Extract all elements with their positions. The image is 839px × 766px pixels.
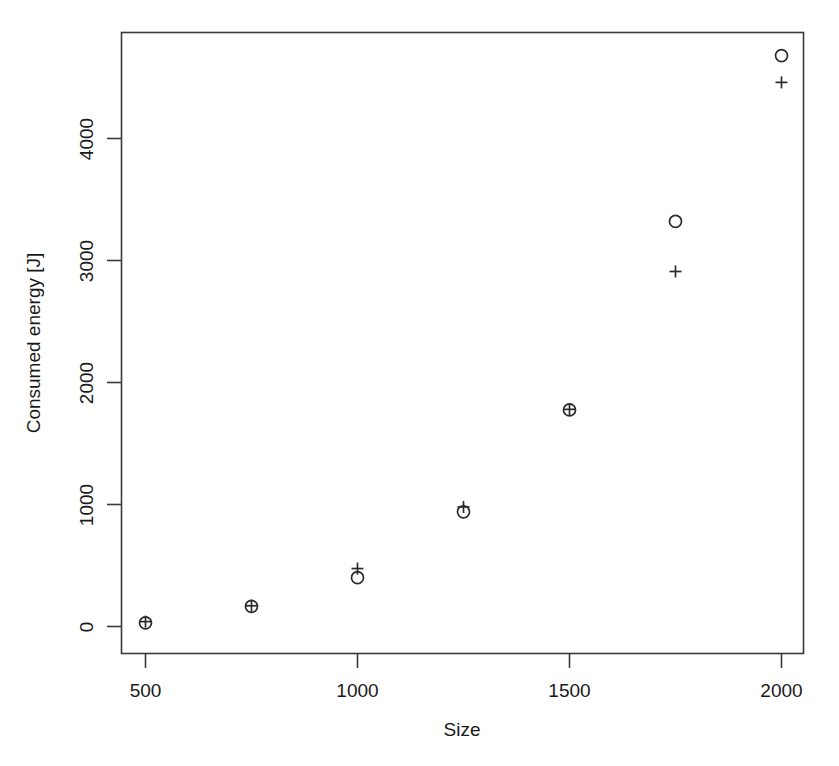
y-tick-label-4000: 4000: [76, 118, 97, 160]
y-tick-label-3000: 3000: [76, 240, 97, 282]
x-tick-label-1500: 1500: [548, 680, 590, 701]
x-axis-title: Size: [444, 719, 481, 740]
chart-page: 0 1000 2000 3000 4000 500 1000 1500 2000…: [0, 0, 839, 766]
x-tick-label-1000: 1000: [336, 680, 378, 701]
x-tick-label-500: 500: [130, 680, 162, 701]
plot-background: [0, 0, 839, 766]
y-tick-label-1000: 1000: [76, 484, 97, 526]
scatter-plot: 0 1000 2000 3000 4000 500 1000 1500 2000…: [0, 0, 839, 766]
y-tick-label-2000: 2000: [76, 362, 97, 404]
y-tick-label-0: 0: [76, 622, 97, 633]
y-axis-title: Consumed energy [J]: [23, 253, 44, 434]
x-tick-label-2000: 2000: [760, 680, 802, 701]
